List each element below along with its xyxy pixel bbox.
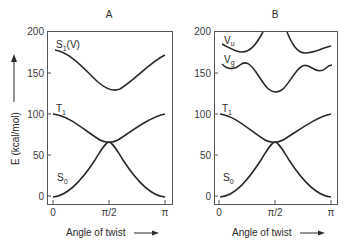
label-s1v: S1(V) — [56, 39, 80, 52]
svg-text:200: 200 — [194, 26, 211, 37]
label-s0: S0 — [57, 172, 68, 185]
panel-b-x-label: Angle of twist — [232, 227, 325, 238]
curve-vu-right — [287, 32, 331, 53]
svg-text:100: 100 — [194, 109, 211, 120]
panel-b-title: B — [272, 9, 279, 20]
svg-text:0: 0 — [205, 191, 211, 202]
svg-text:100: 100 — [27, 109, 44, 120]
svg-text:200: 200 — [27, 26, 44, 37]
svg-text:50: 50 — [200, 150, 212, 161]
panel-a-title: A — [106, 9, 113, 20]
curve-t1-b — [220, 114, 331, 142]
y-axis-label: E (kcal/mol) — [10, 54, 21, 165]
svg-text:150: 150 — [194, 68, 211, 79]
svg-text:50: 50 — [33, 150, 45, 161]
panel-a-x-label: Angle of twist — [66, 227, 159, 238]
svg-text:0: 0 — [216, 207, 222, 218]
svg-text:Angle of twist: Angle of twist — [232, 227, 292, 238]
label-s0-b: S0 — [223, 172, 234, 185]
svg-text:0: 0 — [38, 191, 44, 202]
svg-text:150: 150 — [27, 68, 44, 79]
panel-a-x-ticks: 0 π/2 π — [50, 200, 168, 218]
svg-text:π/2: π/2 — [101, 207, 117, 218]
svg-text:π: π — [328, 207, 335, 218]
curve-t1 — [53, 114, 165, 142]
curve-s0-b — [220, 142, 331, 197]
label-vg: Vg — [224, 54, 235, 67]
label-vu: Vu — [224, 35, 235, 47]
panel-a: A 200 150 100 50 0 0 π/2 π Angle of twis… — [27, 9, 172, 238]
curve-vg — [222, 63, 332, 92]
svg-text:0: 0 — [50, 207, 56, 218]
panel-b-x-ticks: 0 π/2 π — [216, 200, 334, 218]
curve-s1v — [55, 50, 165, 90]
svg-text:π: π — [162, 207, 169, 218]
svg-text:Angle of twist: Angle of twist — [66, 227, 126, 238]
svg-text:π/2: π/2 — [267, 207, 283, 218]
figure: E (kcal/mol) A 200 150 100 50 0 0 π/2 π — [0, 0, 346, 243]
panel-b: B 200 150 100 50 0 0 π/2 π Angle of twis… — [194, 9, 337, 238]
svg-text:E (kcal/mol): E (kcal/mol) — [10, 112, 21, 165]
curve-s0 — [53, 142, 165, 197]
